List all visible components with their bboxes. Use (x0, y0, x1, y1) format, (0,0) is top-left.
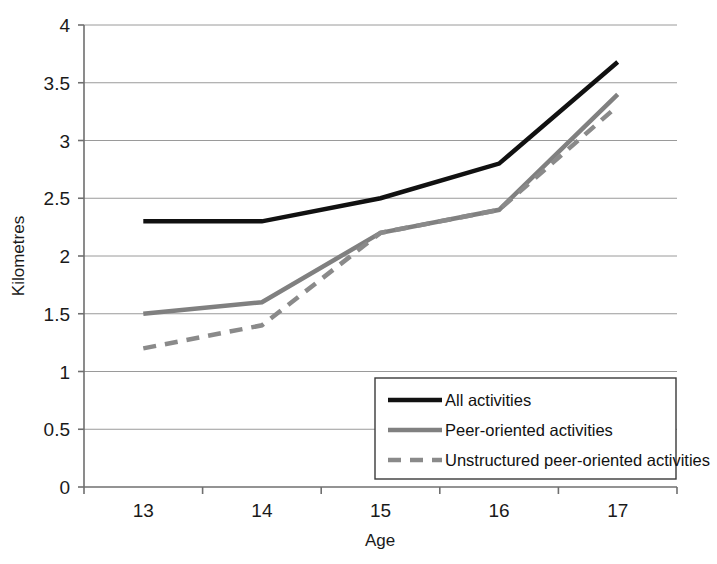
x-tick-label-13: 13 (133, 500, 154, 521)
y-tick-label-4: 4 (59, 15, 70, 36)
x-tick-label-16: 16 (489, 500, 510, 521)
chart-canvas: 4 3.5 3 2.5 2 1.5 1 0.5 0 13 14 15 16 17 (0, 0, 717, 564)
legend-label-unstructured-peer-oriented-activities: Unstructured peer-oriented activities (445, 451, 710, 469)
y-tick-label-3: 3 (59, 131, 70, 152)
line-chart: 4 3.5 3 2.5 2 1.5 1 0.5 0 13 14 15 16 17 (0, 0, 717, 564)
y-tick-label-0: 0 (59, 477, 70, 498)
legend-label-all-activities: All activities (445, 391, 531, 409)
x-axis-title: Age (365, 531, 395, 550)
y-tick-label-2-5: 2.5 (44, 188, 70, 209)
y-tick-label-1: 1 (59, 362, 70, 383)
y-tick-label-0-5: 0.5 (44, 419, 70, 440)
legend-label-peer-oriented-activities: Peer-oriented activities (445, 421, 613, 439)
x-tick-label-17: 17 (607, 500, 628, 521)
x-tick-label-15: 15 (370, 500, 391, 521)
y-tick-label-2: 2 (59, 246, 70, 267)
y-tick-label-3-5: 3.5 (44, 73, 70, 94)
y-axis-title: Kilometres (9, 216, 28, 296)
legend[interactable]: All activities Peer-oriented activities … (375, 378, 710, 479)
x-tick-label-14: 14 (251, 500, 273, 521)
y-tick-label-1-5: 1.5 (44, 304, 70, 325)
